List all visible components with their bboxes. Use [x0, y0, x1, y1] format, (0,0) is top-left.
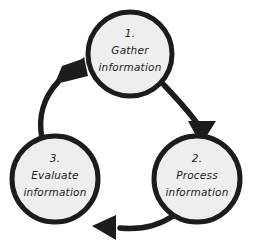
- cycle-diagram-canvas: 1. Gather information 2. Process informa…: [0, 0, 255, 240]
- arrow-process-to-evaluate: [92, 215, 173, 240]
- node-gather-line2: information: [99, 61, 162, 73]
- node-evaluate-line2: information: [24, 186, 87, 198]
- arrow-process-to-evaluate-line: [120, 216, 173, 229]
- node-process-line1: Process: [176, 169, 218, 181]
- node-evaluate-number: 3.: [50, 152, 60, 164]
- node-process-number: 2.: [192, 152, 202, 164]
- node-gather-line1: Gather: [111, 44, 149, 56]
- cycle-diagram: 1. Gather information 2. Process informa…: [0, 0, 255, 240]
- node-process-line2: information: [166, 186, 229, 198]
- node-gather[interactable]: 1. Gather information: [88, 12, 172, 96]
- node-evaluate-line1: Evaluate: [31, 169, 78, 181]
- node-evaluate[interactable]: 3. Evaluate information: [12, 136, 98, 222]
- arrow-evaluate-to-gather: [41, 57, 88, 138]
- arrow-process-to-evaluate-head: [92, 215, 116, 240]
- node-process[interactable]: 2. Process information: [154, 136, 240, 222]
- node-gather-number: 1.: [125, 27, 135, 39]
- arrow-evaluate-to-gather-line: [41, 82, 58, 138]
